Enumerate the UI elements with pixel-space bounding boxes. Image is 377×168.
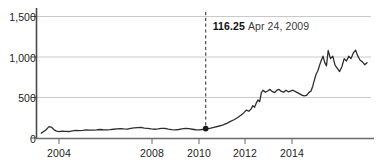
y-axis-tick-label-500: 500: [6, 92, 36, 104]
gridlines: [36, 17, 371, 98]
x-axis-tick-label-2014: 2014: [267, 147, 317, 159]
x-axis-ticks: [59, 139, 292, 144]
x-axis-tick-label-2004: 2004: [34, 147, 84, 159]
axis-spines: [36, 8, 374, 139]
x-axis-tick-label-2008: 2008: [127, 147, 177, 159]
chart-plot-area: [0, 0, 377, 168]
annotation-marker-dot[interactable]: [203, 126, 209, 132]
y-axis-tick-label-1000: 1,000: [6, 52, 36, 64]
y-axis-tick-label-0: 0: [6, 133, 36, 145]
point-annotation-label: 116.25 Apr 24, 2009: [213, 20, 310, 32]
annotation-value: 116.25: [213, 20, 245, 32]
stock-price-line-chart: 1,500 1,000 500 0 2004 2008 2010 2012 20…: [0, 0, 377, 168]
x-axis-tick-label-2010: 2010: [174, 147, 224, 159]
x-axis-tick-label-2012: 2012: [220, 147, 270, 159]
y-axis-ticks: [31, 17, 36, 139]
annotation-date: Apr 24, 2009: [248, 20, 309, 32]
price-series-line: [41, 50, 367, 133]
y-axis-tick-label-1500: 1,500: [6, 11, 36, 23]
